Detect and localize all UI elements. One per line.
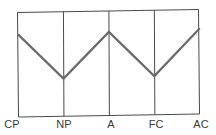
gridline-np (63, 12, 64, 117)
chart-plot-area (0, 0, 216, 135)
x-tick-label-cp: CP (4, 118, 19, 131)
x-tick-label-np: NP (56, 118, 71, 131)
x-tick-label-fc: FC (149, 118, 164, 131)
x-tick-label-ac: AC (193, 118, 208, 131)
x-tick-label-a: A (107, 118, 114, 131)
gridline-fc (154, 10, 155, 115)
gridline-a (109, 11, 110, 116)
